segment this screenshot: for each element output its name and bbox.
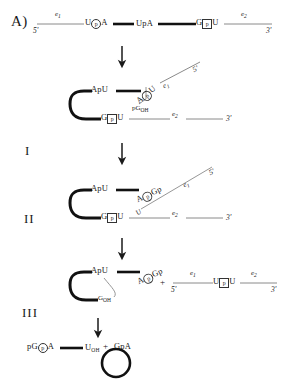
lariat3-g-oh: GOH	[98, 295, 111, 302]
exon-junction: UpU	[213, 277, 236, 287]
precursor-exon2: e2	[241, 11, 247, 18]
circular-rna	[102, 349, 130, 377]
precursor-5prime: 5'	[33, 27, 38, 35]
precursor-exon1: e1	[55, 11, 61, 18]
lariat3-apu: ApU	[91, 266, 108, 275]
circled-phosphate: p	[38, 343, 48, 353]
step-label-ii: II	[24, 212, 35, 225]
boxed-phosphate: p	[107, 114, 117, 124]
lariat1-pg-oh: pGOH	[132, 105, 149, 112]
plus-sign-iii: +	[160, 278, 165, 287]
boxed-phosphate: p	[202, 19, 212, 29]
precursor-intron-mid: UpA	[136, 19, 153, 28]
final-pga: pGpA	[27, 342, 54, 352]
circled-phosphate: p	[91, 19, 101, 29]
figure-canvas: A) 5' e1 UpA UpA GpU e2 3' I II III ApU …	[0, 0, 288, 381]
lariat1-exon2: e2	[172, 111, 178, 118]
precursor-branch-site: UpA	[85, 18, 108, 28]
ligated-5prime: 5'	[171, 286, 176, 294]
step-label-i: I	[25, 144, 30, 157]
lariat1-3ss: GpU	[101, 113, 124, 123]
plus-sign-final: +	[103, 342, 108, 351]
precursor-3prime: 3'	[266, 27, 271, 35]
lariat2-3ss: GpU	[101, 212, 124, 222]
boxed-phosphate: p	[219, 278, 229, 288]
lariat2-3prime: 3'	[226, 214, 231, 222]
lariat2-exon2: e2	[172, 210, 178, 217]
lariat1-3prime: 3'	[226, 115, 231, 123]
ligated-exon2: e2	[251, 270, 257, 277]
lariat2-apu: ApU	[91, 184, 108, 193]
circular-rna-label: GpA	[114, 342, 131, 351]
lariat1-apu: ApU	[91, 85, 108, 94]
ligated-exon1: e1	[190, 270, 196, 277]
ligated-3prime: 3'	[271, 286, 276, 294]
boxed-phosphate: p	[107, 213, 117, 223]
precursor-3ss: GpU	[196, 18, 219, 28]
panel-label-a: A)	[11, 14, 28, 29]
final-u-oh: UOH	[85, 343, 100, 352]
step-label-iii: III	[22, 306, 38, 319]
